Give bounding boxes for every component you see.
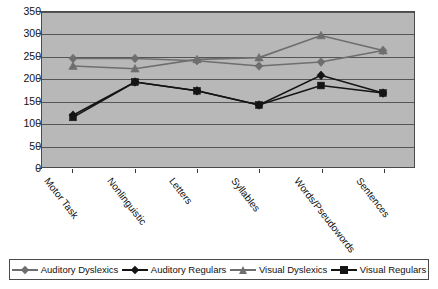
plot-area — [41, 11, 415, 168]
legend-swatch-visual-dyslexics — [230, 265, 256, 275]
data-point-diamond — [317, 71, 325, 80]
legend-label: Auditory Dyslexics — [41, 264, 119, 275]
x-tick-mark — [197, 169, 198, 173]
legend-marker-diamond — [21, 265, 29, 273]
x-tick-label: Motor Task — [42, 176, 80, 221]
legend-item[interactable]: Auditory Dyslexics — [12, 264, 119, 275]
data-point-diamond — [131, 54, 139, 63]
legend-label: Visual Regulars — [360, 264, 426, 275]
x-tick-mark — [135, 169, 136, 173]
data-point-diamond — [317, 58, 325, 67]
x-tick-mark — [72, 169, 73, 173]
x-tick-label: Letters — [167, 176, 194, 206]
legend-marker-triangle — [239, 266, 247, 274]
x-tick-mark — [259, 169, 260, 173]
data-point-square — [70, 114, 77, 121]
legend-item[interactable]: Visual Regulars — [331, 264, 426, 275]
legend-marker-square — [340, 266, 348, 274]
x-tick-label: Sentences — [354, 176, 391, 219]
legend-item[interactable]: Auditory Regulars — [122, 264, 227, 275]
series-line — [73, 75, 383, 115]
data-point-square — [256, 102, 263, 109]
chart-legend: Auditory Dyslexics Auditory Regulars Vis… — [9, 259, 429, 280]
x-tick-mark — [384, 169, 385, 173]
legend-label: Visual Dyslexics — [259, 264, 327, 275]
legend-swatch-auditory-dyslexics — [12, 265, 38, 275]
data-point-square — [194, 87, 201, 94]
legend-marker-diamond — [131, 265, 139, 273]
x-tick-label: Words/Pseudowords — [292, 176, 357, 255]
x-tick-label: Syllables — [229, 176, 262, 214]
legend-swatch-visual-regulars — [331, 265, 357, 275]
data-point-triangle — [317, 31, 325, 39]
x-tick-mark — [322, 169, 323, 173]
series-layer — [42, 12, 414, 167]
series-line — [73, 82, 383, 117]
data-point-diamond — [255, 62, 263, 71]
data-point-square — [132, 79, 139, 86]
legend-swatch-auditory-regulars — [122, 265, 148, 275]
line-chart: 050100150200250300350 Motor TaskNonlingu… — [0, 0, 438, 289]
x-tick-label: Nonlinguistic — [105, 176, 148, 227]
data-point-square — [380, 90, 387, 97]
data-point-square — [318, 82, 325, 89]
legend-item[interactable]: Visual Dyslexics — [230, 264, 327, 275]
legend-label: Auditory Regulars — [151, 264, 227, 275]
y-axis: 050100150200250300350 — [0, 0, 41, 180]
